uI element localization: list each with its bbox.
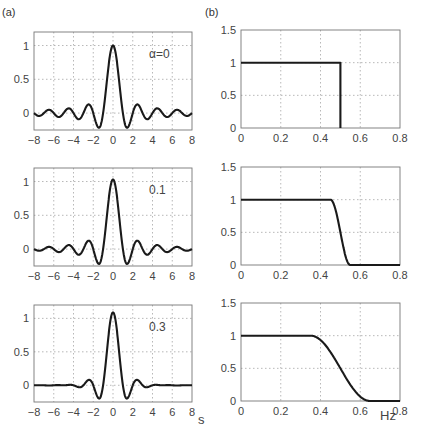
x-tick-label: 8: [189, 134, 195, 146]
y-tick-label: 1: [230, 194, 236, 206]
x-tick-label: 8: [189, 406, 195, 418]
plot-a2: −8−6−4−20246800.510.1: [14, 168, 195, 282]
alpha-annotation: 0.3: [149, 320, 166, 334]
x-tick-label: 0.6: [353, 269, 368, 281]
x-tick-label: 2: [130, 270, 136, 282]
x-tick-label: −6: [47, 406, 60, 418]
x-tick-label: 0: [110, 270, 116, 282]
x-tick-label: 0: [238, 132, 244, 144]
panel-label-a: (a): [2, 6, 15, 18]
x-tick-label: 0.4: [313, 132, 328, 144]
y-tick-label: 0: [23, 379, 29, 391]
x-tick-label: 0.2: [273, 132, 288, 144]
y-tick-label: 0.5: [221, 362, 236, 374]
x-tick-label: 0: [110, 134, 116, 146]
y-tick-label: 0: [230, 122, 236, 134]
x-tick-label: −2: [87, 134, 100, 146]
panel-label-b: (b): [205, 6, 218, 18]
y-tick-label: 1: [230, 57, 236, 69]
x-tick-label: 0.4: [313, 269, 328, 281]
y-tick-label: 0.5: [221, 89, 236, 101]
figure: (a) (b) −8−6−4−20246800.51α=000.20.40.60…: [0, 0, 422, 439]
x-tick-label: −2: [87, 406, 100, 418]
x-tick-label: −4: [67, 134, 80, 146]
y-tick-label: 0.5: [221, 226, 236, 238]
alpha-annotation: 0.1: [149, 183, 166, 197]
x-tick-label: 2: [130, 406, 136, 418]
plot-b2: 00.20.40.60.800.511.5: [221, 161, 408, 281]
y-tick-label: 1: [23, 176, 29, 188]
y-tick-label: 1: [23, 312, 29, 324]
x-tick-label: 2: [130, 134, 136, 146]
y-tick-label: 1.5: [221, 161, 236, 173]
y-tick-label: 0.5: [14, 73, 29, 85]
x-tick-label: −8: [28, 406, 41, 418]
x-axis-label-s: s: [198, 412, 205, 427]
x-tick-label: −2: [87, 270, 100, 282]
y-tick-label: 1: [23, 40, 29, 52]
plot-a3: −8−6−4−20246800.510.3: [14, 305, 195, 418]
y-tick-label: 0.5: [14, 346, 29, 358]
y-tick-label: 0: [23, 243, 29, 255]
x-tick-label: 0.2: [273, 269, 288, 281]
x-tick-label: 0.2: [273, 405, 288, 417]
x-tick-label: 6: [169, 134, 175, 146]
x-tick-label: −6: [47, 134, 60, 146]
y-tick-label: 0: [23, 107, 29, 119]
x-tick-label: 0.8: [392, 132, 407, 144]
x-tick-label: 0.4: [313, 405, 328, 417]
plot-b1: 00.20.40.60.800.511.5: [221, 24, 408, 144]
plot-b3: 00.20.40.60.800.511.5: [221, 297, 408, 417]
x-tick-label: 8: [189, 270, 195, 282]
x-tick-label: 4: [149, 270, 155, 282]
y-tick-label: 0.5: [14, 209, 29, 221]
x-tick-label: −4: [67, 406, 80, 418]
x-tick-label: −6: [47, 270, 60, 282]
alpha-annotation: α=0: [149, 47, 170, 61]
x-tick-label: 4: [149, 134, 155, 146]
y-tick-label: 1.5: [221, 297, 236, 309]
x-tick-label: 0.8: [392, 269, 407, 281]
y-tick-label: 1: [230, 330, 236, 342]
x-tick-label: 6: [169, 270, 175, 282]
plot-a1: −8−6−4−20246800.51α=0: [14, 32, 195, 146]
x-tick-label: 4: [149, 406, 155, 418]
x-tick-label: 0.6: [353, 132, 368, 144]
x-tick-label: 6: [169, 406, 175, 418]
y-tick-label: 0: [230, 259, 236, 271]
x-tick-label: 0: [238, 269, 244, 281]
y-tick-label: 1.5: [221, 24, 236, 36]
x-tick-label: 0: [238, 405, 244, 417]
x-tick-label: 0: [110, 406, 116, 418]
x-tick-label: −8: [28, 270, 41, 282]
x-tick-label: −4: [67, 270, 80, 282]
x-axis-label-hz: Hz: [380, 408, 396, 423]
x-tick-label: 0.6: [353, 405, 368, 417]
y-tick-label: 0: [230, 395, 236, 407]
x-tick-label: −8: [28, 134, 41, 146]
